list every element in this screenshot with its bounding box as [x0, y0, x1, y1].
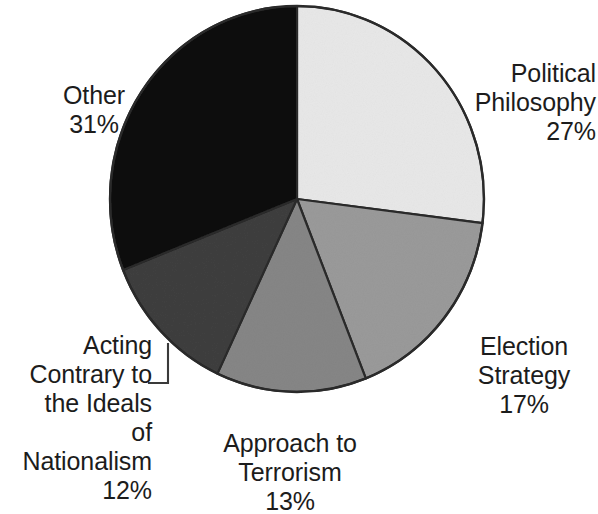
slice-label-acting-contrary: Acting Contrary to the Ideals of Nationa…: [0, 302, 152, 514]
slice-percent-approach-terrorism: 13%: [196, 487, 384, 514]
slice-percent-other: 31%: [30, 110, 158, 139]
slice-percent-political-philosophy: 27%: [436, 117, 596, 146]
slice-label-acting-contrary-text: Acting Contrary to the Ideals of Nationa…: [22, 331, 152, 475]
slice-label-political-philosophy: Political Philosophy 27%: [436, 30, 596, 175]
slice-label-approach-terrorism: Approach to Terrorism 13%: [196, 400, 384, 514]
slice-label-other-text: Other: [63, 81, 125, 109]
slice-label-election-strategy: Election Strategy 17%: [456, 303, 592, 448]
slice-label-political-philosophy-text: Political Philosophy: [475, 59, 596, 116]
slice-label-election-strategy-text: Election Strategy: [478, 332, 570, 389]
slice-label-other: Other 31%: [30, 52, 158, 168]
slice-percent-acting-contrary: 12%: [0, 476, 152, 505]
slice-percent-election-strategy: 17%: [456, 390, 592, 419]
slice-label-approach-terrorism-text: Approach to Terrorism: [223, 429, 357, 486]
